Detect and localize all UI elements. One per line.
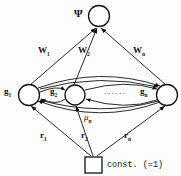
node-bias-square[interactable] [85,157,102,173]
label-weight-r2: r2 [81,131,88,142]
label-node-g1-sub: 1 [9,92,12,98]
label-weight-w2-sub: 2 [87,51,90,57]
label-weight-w2-base: W [78,45,87,55]
label-weight-wn-base: W [133,45,142,55]
label-weight-wn: Wn [133,46,145,57]
label-node-g2: g2 [50,87,57,98]
label-mu: μn [84,113,92,124]
label-node-g1: g1 [4,87,11,98]
node-hidden-g2[interactable] [65,85,85,105]
label-weight-w1-base: W [38,45,47,55]
label-weight-w1: W1 [38,46,50,57]
label-node-gn: gn [140,87,148,98]
label-weight-wn-sub: n [142,51,145,57]
label-weight-r2-sub: 2 [85,136,88,142]
label-node-gn-sub: n [145,92,148,98]
label-weight-rn: rn [124,131,131,142]
label-weight-w1-sub: 1 [47,51,50,57]
label-node-g2-sub: 2 [55,92,58,98]
diagram-graphics [0,0,181,176]
node-hidden-gn[interactable] [157,85,178,106]
label-ellipsis: ······ [104,90,126,98]
label-weight-r1-sub: 1 [44,136,47,142]
label-bias-const: const. (=1) [107,161,163,170]
label-weight-w2: W2 [78,46,90,57]
diagram-canvas: Ψ W1 W2 Wn g1 g2 gn ······ μn r1 r2 rn c… [0,0,181,176]
edge-g2-to-g1-lower [41,99,65,103]
node-output-psi[interactable] [89,6,110,27]
label-weight-r1: r1 [40,131,47,142]
label-mu-sub: n [89,118,92,124]
label-psi: Ψ [74,8,83,19]
node-hidden-g1[interactable] [19,85,40,106]
label-weight-rn-sub: n [128,136,131,142]
